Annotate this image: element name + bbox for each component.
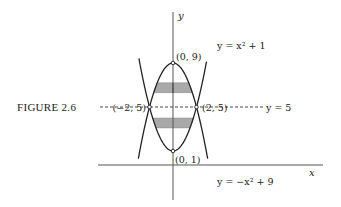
point-label-0-1: (0, 1) (175, 154, 201, 165)
upward-parabola-label: y = x² + 1 (216, 40, 266, 51)
intersection-point (171, 61, 175, 65)
intersection-point (171, 149, 175, 153)
intersection-point (195, 105, 199, 109)
downward-parabola-label: y = −x² + 9 (216, 176, 274, 187)
figure-diagram: y x y = x² + 1 y = −x² + 9 y = 5 (0, 9) … (0, 0, 341, 207)
y-axis-label: y (177, 10, 184, 21)
x-axis-label: x (309, 167, 315, 178)
intersection-point (148, 105, 152, 109)
point-label-2-5: (2, 5) (202, 102, 228, 113)
figure-caption: FIGURE 2.6 (17, 101, 76, 113)
point-label-neg2-5: (−2, 5) (112, 102, 146, 113)
line-y5-label: y = 5 (265, 102, 291, 113)
point-label-0-9: (0, 9) (176, 51, 202, 62)
